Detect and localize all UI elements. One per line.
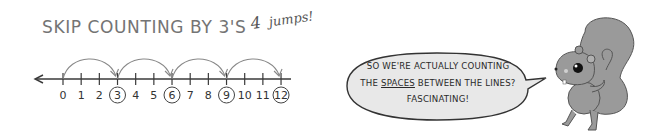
jump-arc xyxy=(172,59,225,79)
squirrel-icon xyxy=(540,0,664,138)
bubble-line-3: FASCINATING! xyxy=(347,91,529,108)
tick-label: 9 xyxy=(223,89,230,102)
tick-label: 3 xyxy=(114,89,121,102)
number-line: 0123456789101112 xyxy=(0,0,300,110)
underlined-word: SPACES xyxy=(381,78,415,88)
tick-label: 6 xyxy=(169,89,176,102)
tick-label: 8 xyxy=(205,89,212,102)
tick-label: 11 xyxy=(256,89,270,102)
tick-label: 4 xyxy=(132,89,139,102)
tick-label: 7 xyxy=(187,89,194,102)
bubble-line-2-prefix: THE xyxy=(360,78,381,88)
tick-label: 1 xyxy=(78,89,85,102)
tick-label: 5 xyxy=(150,89,157,102)
jump-arc xyxy=(63,59,116,79)
tick-label: 10 xyxy=(238,89,252,102)
jump-arc xyxy=(227,59,280,79)
tick-label: 2 xyxy=(96,89,103,102)
tick-label: 12 xyxy=(274,89,288,102)
bubble-line-2: THE SPACES BETWEEN THE LINES? xyxy=(347,75,529,92)
bubble-line-1: SO WE'RE ACTUALLY COUNTING xyxy=(347,58,529,75)
tick-label: 0 xyxy=(60,89,67,102)
bubble-line-2-suffix: BETWEEN THE LINES? xyxy=(415,78,516,88)
jump-arc xyxy=(118,59,171,79)
speech-bubble-text: SO WE'RE ACTUALLY COUNTING THE SPACES BE… xyxy=(347,58,529,108)
